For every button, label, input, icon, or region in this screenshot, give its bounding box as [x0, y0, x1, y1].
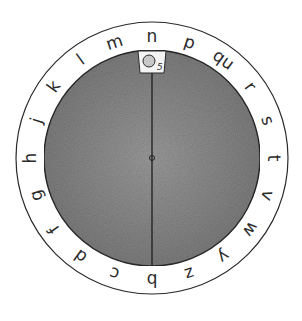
- wheel-letter-n: n: [147, 26, 158, 46]
- pointer-window[interactable]: 5: [138, 51, 166, 73]
- wheel-letter-h: h: [20, 153, 40, 164]
- wheel-letter-t: t: [264, 155, 284, 162]
- letter-wheel[interactable]: 5 npqurstvwyzbcdfghjklm: [0, 0, 302, 321]
- wheel-letter-b: b: [147, 270, 158, 290]
- window-label: 5: [157, 62, 163, 72]
- window-dot-icon: [143, 55, 155, 67]
